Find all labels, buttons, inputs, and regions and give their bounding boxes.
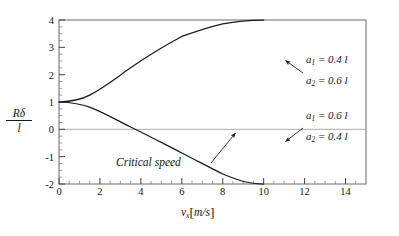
x-axis-unit: m/s xyxy=(194,206,210,218)
x-tick-label: 4 xyxy=(138,186,143,197)
lower-a1-value: = 0.6 xyxy=(318,109,345,121)
lower-a1-unit: l xyxy=(345,109,348,121)
x-tick-label: 0 xyxy=(56,186,61,197)
upper-annotation-line-1: a1 = 0.4 l xyxy=(306,54,348,68)
y-tick-label: 1 xyxy=(34,97,54,108)
y-axis-title: Rδ l xyxy=(6,107,32,135)
upper-annotation-line-2: a2 = 0.6 l xyxy=(306,75,348,89)
upper-a2-unit: l xyxy=(345,74,348,86)
y-tick-label: -2 xyxy=(34,179,54,190)
y-tick-label: 4 xyxy=(34,15,54,26)
upper-curve-annotation-2: a2 = 0.6 l xyxy=(306,75,348,89)
y-axis-denominator: l xyxy=(6,122,32,135)
lower-curve-annotation: a1 = 0.6 l xyxy=(306,110,348,124)
lower-annotation-line-1: a1 = 0.6 l xyxy=(306,110,348,124)
lower-a2-value: = 0.4 xyxy=(318,130,345,142)
lower-a2-unit: l xyxy=(345,130,348,142)
y-tick-label: 3 xyxy=(34,42,54,53)
y-tick-label: -1 xyxy=(34,151,54,162)
chart-figure: 0 2 4 6 8 10 12 14 4 3 2 1 0 -1 -2 Rδ l … xyxy=(0,0,399,236)
y-tick-label: 2 xyxy=(34,69,54,80)
upper-a1-unit: l xyxy=(345,53,348,65)
x-tick-label: 12 xyxy=(299,186,310,197)
bracket-close: ] xyxy=(210,205,215,220)
x-tick-label: 2 xyxy=(97,186,102,197)
upper-a2-subscript: 2 xyxy=(312,80,316,88)
y-axis-numerator: Rδ xyxy=(6,107,32,120)
x-axis-title: vx[m/s] xyxy=(181,205,214,221)
x-tick-label: 14 xyxy=(340,186,351,197)
critical-speed-annotation: Critical speed xyxy=(116,156,181,168)
lower-curve-annotation-2: a2 = 0.4 l xyxy=(306,131,348,145)
plot-frame xyxy=(59,20,366,184)
lower-a2-subscript: 2 xyxy=(312,136,316,144)
plot-border xyxy=(59,20,366,184)
lower-annotation-line-2: a2 = 0.4 l xyxy=(306,131,348,145)
x-tick-label: 8 xyxy=(220,186,225,197)
upper-a2-value: = 0.6 xyxy=(318,74,345,86)
upper-a1-value: = 0.4 xyxy=(318,53,345,65)
lower-a1-subscript: 1 xyxy=(312,115,316,123)
y-tick-label: 0 xyxy=(34,124,54,135)
upper-curve-annotation: a1 = 0.4 l xyxy=(306,54,348,68)
x-tick-label: 6 xyxy=(179,186,184,197)
upper-a1-subscript: 1 xyxy=(312,59,316,67)
x-tick-label: 10 xyxy=(258,186,269,197)
